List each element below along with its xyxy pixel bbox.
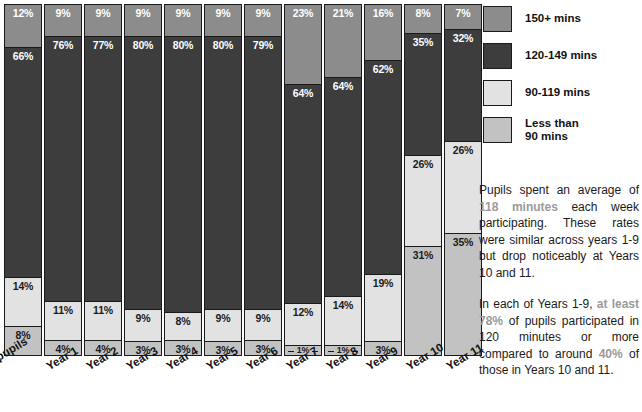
annotation-2-highlight-2: 40% xyxy=(599,347,623,361)
bar-segment: 9% xyxy=(245,5,281,37)
bar-segment: 7% xyxy=(445,5,481,30)
bars-container: 12%66%14%8%All pupils9%76%11%4%Year 19%7… xyxy=(4,4,482,356)
bar-column: 9%80%9%3%Year 5 xyxy=(204,4,242,356)
bar-segment: 23% xyxy=(285,5,321,85)
bar-segment: 35% xyxy=(405,34,441,156)
bar-segment: 32% xyxy=(445,30,481,142)
bar-segment-label: 76% xyxy=(53,37,73,51)
bar-column: 9%80%9%3%Year 3 xyxy=(124,4,162,356)
bar-segment: 80% xyxy=(125,37,161,310)
bar-segment: 76% xyxy=(45,37,81,302)
annotation-text-block: Pupils spent an average of 118 minutes e… xyxy=(479,182,639,379)
bar-segment-label: 26% xyxy=(453,142,473,156)
bar-segment-label: 14% xyxy=(13,278,33,292)
bar-segment: 64% xyxy=(285,85,321,305)
bar-segment-label: 66% xyxy=(13,48,33,62)
bar-segment-label: 79% xyxy=(253,37,273,51)
annotation-paragraph-2: In each of Years 1-9, at least 78% of pu… xyxy=(479,296,639,379)
bar-segment-label: 32% xyxy=(453,30,473,44)
bar-segment: 9% xyxy=(45,5,81,37)
bar-segment: 26% xyxy=(445,142,481,233)
bar-column: 9%79%9%3%Year 6 xyxy=(244,4,282,356)
bar-segment: 9% xyxy=(125,310,161,342)
bar-segment-label: 9% xyxy=(96,5,111,19)
bar-segment-label: 64% xyxy=(293,85,313,99)
stacked-bar: 21%64%14%1% xyxy=(324,4,362,356)
bar-segment: 62% xyxy=(365,61,401,275)
bar-segment: 12% xyxy=(5,5,41,48)
bar-segment: 80% xyxy=(165,37,201,313)
bar-segment-label: 8% xyxy=(416,5,431,19)
bar-segment: 21% xyxy=(325,5,361,78)
bar-segment-label: 31% xyxy=(413,247,433,261)
stacked-bar: 23%64%12%1% xyxy=(284,4,322,356)
bar-segment-label: 77% xyxy=(93,37,113,51)
bar-segment-label: 80% xyxy=(133,37,153,51)
legend-item: 150+ mins xyxy=(483,6,638,32)
legend-item: 90-119 mins xyxy=(483,80,638,106)
annotation-paragraph-1: Pupils spent an average of 118 minutes e… xyxy=(479,182,639,281)
stacked-bar: 9%80%9%3% xyxy=(124,4,162,356)
bar-segment: 19% xyxy=(365,275,401,341)
stacked-bar: 9%80%9%3% xyxy=(204,4,242,356)
stacked-bar: 16%62%19%3% xyxy=(364,4,402,356)
stacked-bar: 9%76%11%4% xyxy=(44,4,82,356)
bar-segment: 64% xyxy=(325,78,361,298)
bar-segment: 8% xyxy=(405,5,441,34)
stacked-bar: 9%79%9%3% xyxy=(244,4,282,356)
bar-segment: 9% xyxy=(205,5,241,37)
bar-column: 16%62%19%3%Year 9 xyxy=(364,4,402,356)
legend-label: 120-149 mins xyxy=(525,43,597,62)
bar-segment-label: 11% xyxy=(53,302,73,316)
bar-segment-label: 62% xyxy=(373,61,393,75)
bar-segment-label: 9% xyxy=(256,310,271,324)
bar-segment-label: 14% xyxy=(333,297,353,311)
bar-column: 7%32%26%35%Year 11 xyxy=(444,4,482,356)
legend-label: 90-119 mins xyxy=(525,80,590,99)
bar-segment: 16% xyxy=(365,5,401,61)
bar-segment: 66% xyxy=(5,48,41,278)
bar-segment-label: 9% xyxy=(56,5,71,19)
legend-swatch xyxy=(483,43,512,69)
bar-segment: 12% xyxy=(285,304,321,346)
bar-segment-label: 9% xyxy=(216,310,231,324)
bar-segment: 14% xyxy=(5,278,41,328)
annotation-1-highlight: 118 minutes xyxy=(479,200,558,214)
bar-segment-label: 80% xyxy=(173,37,193,51)
legend-item: Less than 90 mins xyxy=(483,117,638,143)
bar-segment-label: 16% xyxy=(373,5,393,19)
bar-segment: 80% xyxy=(205,37,241,310)
bar-segment: 79% xyxy=(245,37,281,310)
legend-swatch xyxy=(483,6,512,32)
bar-segment-label: 12% xyxy=(13,5,33,19)
bar-segment-label: 19% xyxy=(373,275,393,289)
bar-column: 9%76%11%4%Year 1 xyxy=(44,4,82,356)
annotation-2-lead: In each of Years 1-9, xyxy=(479,297,597,311)
bar-segment: 31% xyxy=(405,247,441,355)
bar-segment-label: 11% xyxy=(93,302,113,316)
bar-segment: 14% xyxy=(325,297,361,346)
legend-item: 120-149 mins xyxy=(483,43,638,69)
bar-segment-label: 9% xyxy=(136,5,151,19)
bar-segment: 11% xyxy=(45,302,81,341)
bar-segment-label: 80% xyxy=(213,37,233,51)
legend-label: Less than 90 mins xyxy=(525,117,579,143)
bar-segment: 11% xyxy=(85,302,121,341)
bar-segment: 9% xyxy=(205,310,241,342)
bar-column: 23%64%12%1%Year 7 xyxy=(284,4,322,356)
stacked-bar: 9%77%11%4% xyxy=(84,4,122,356)
bar-segment: 77% xyxy=(85,37,121,303)
bar-segment: 8% xyxy=(165,313,201,342)
bar-segment: 9% xyxy=(85,5,121,37)
bar-segment-label: 9% xyxy=(216,5,231,19)
bar-segment-label: 8% xyxy=(176,313,191,327)
legend-swatch xyxy=(483,117,512,143)
bar-segment-label: 9% xyxy=(136,310,151,324)
legend-swatch xyxy=(483,80,512,106)
chart-legend: 150+ mins120-149 mins90-119 minsLess tha… xyxy=(483,6,638,154)
bar-segment-label: 9% xyxy=(176,5,191,19)
bar-segment: 9% xyxy=(165,5,201,37)
bar-segment: 26% xyxy=(405,156,441,247)
annotation-1-lead: Pupils spent an average of xyxy=(479,183,639,197)
bar-column: 9%80%8%3%Year 4 xyxy=(164,4,202,356)
